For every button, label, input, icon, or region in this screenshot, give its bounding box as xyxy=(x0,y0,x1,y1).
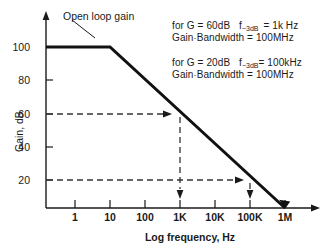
y-tick-label-100: 100 xyxy=(2,42,30,53)
gain-60db-arrowhead xyxy=(163,111,172,118)
x-tick-label-10k: 10K xyxy=(195,212,235,223)
note-1-line-2: Gain·Bandwidth = 100MHz xyxy=(172,33,294,43)
y-tick-label-80: 80 xyxy=(2,75,30,86)
y-axis-title: Gain, dB xyxy=(14,111,25,152)
y-axis-arrowhead xyxy=(43,11,50,20)
note-2-bandwidth-text: Bandwidth = 100MHz xyxy=(197,69,294,80)
note-2-f-value: = 100kHz xyxy=(259,57,302,68)
x-tick-label-100k: 100K xyxy=(230,212,270,223)
gain-20db-arrowhead xyxy=(235,177,244,184)
y-tick-label-20: 20 xyxy=(2,175,30,186)
x-tick-label-1: 1 xyxy=(55,212,95,223)
callout-leader-line xyxy=(72,20,95,38)
note-2-gain-text: for G = 20dB xyxy=(172,57,230,68)
bode-plot-figure: 100 80 60 40 20 Gain, dB 1 10 100 1K 10K… xyxy=(0,0,326,249)
note-1-f-subscript: −3dB xyxy=(242,25,259,32)
x-tick-label-10: 10 xyxy=(90,212,130,223)
x-tick-label-1m: 1M xyxy=(265,212,305,223)
x-tick-label-100: 100 xyxy=(125,212,165,223)
note-1-f-value: = 1k Hz xyxy=(263,20,298,31)
note-1-bandwidth-text: Bandwidth = 100MHz xyxy=(197,32,294,43)
note-1-gain-label: Gain xyxy=(172,32,194,43)
note-2-line-2: Gain·Bandwidth = 100MHz xyxy=(172,70,294,80)
open-loop-gain-callout: Open loop gain xyxy=(63,11,134,22)
note-1-gain-text: for G = 60dB xyxy=(172,20,230,31)
x-axis-title: Log frequency, Hz xyxy=(110,232,270,243)
note-2-f-subscript: −3dB xyxy=(242,62,259,69)
note-2-gain-label: Gain xyxy=(172,69,194,80)
x-tick-label-1k: 1K xyxy=(160,212,200,223)
x-axis-ticks xyxy=(75,200,285,208)
freq-100k-arrowhead xyxy=(247,190,254,199)
x-axis-arrowhead xyxy=(311,205,320,212)
note-1-line-1: for G = 60dB f−3dB = 1k Hz xyxy=(172,21,298,31)
note-2-line-1: for G = 20dB f−3dB= 100kHz xyxy=(172,58,302,68)
freq-1k-arrowhead xyxy=(177,190,184,199)
